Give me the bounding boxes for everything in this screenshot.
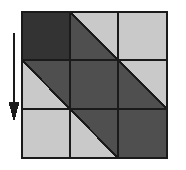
quilt-block-figure [0,0,186,170]
cell-r2c2 [70,60,118,109]
cell-r1c3-solid-patch [118,12,167,60]
cell-r3c1 [22,109,70,158]
cell-r3c2 [70,109,118,158]
cell-r3c3-solid-patch [118,109,167,158]
cell-r3c1-solid-patch [22,109,70,158]
cell-r2c3 [118,60,167,109]
cell-r1c1 [22,12,70,60]
cell-r1c2 [70,12,118,60]
cell-r1c1-solid-patch [22,12,70,60]
cell-r2c2-solid-patch [70,60,118,109]
cell-r2c1 [22,60,70,109]
cell-r1c3 [118,12,167,60]
cell-r3c3 [118,109,167,158]
quilt-block-svg [0,0,186,170]
